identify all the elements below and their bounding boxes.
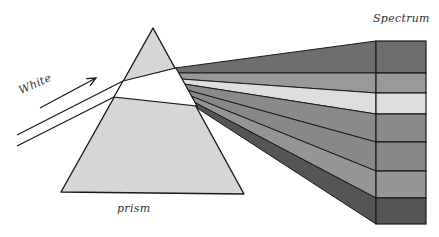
spectrum-band [376,142,426,171]
spectrum-label: Spectrum [373,12,430,25]
fan-band [175,41,376,73]
spectrum-band [376,198,426,224]
spectrum-band [376,73,426,93]
spectrum-band [376,171,426,198]
spectrum-bands [376,41,426,224]
spectrum-band [376,41,426,73]
prism-label: prism [117,202,150,215]
spectrum-band [376,114,426,142]
prism-diagram [0,0,439,237]
spectrum-band [376,93,426,114]
